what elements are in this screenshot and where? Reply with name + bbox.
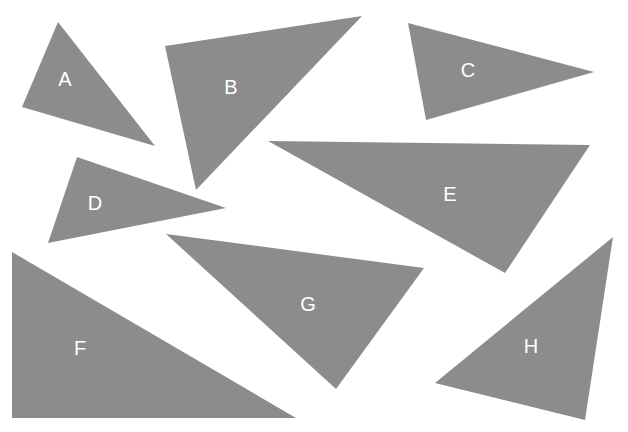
- triangle-label-g: G: [300, 293, 316, 315]
- triangle-label-c: C: [461, 59, 475, 81]
- triangle-label-f: F: [74, 337, 86, 359]
- triangle-label-e: E: [443, 183, 456, 205]
- triangles-diagram: A B C D E F G H: [0, 0, 628, 432]
- triangle-label-b: B: [224, 76, 237, 98]
- triangle-label-d: D: [88, 192, 102, 214]
- triangle-label-h: H: [524, 335, 538, 357]
- figure-canvas: A B C D E F G H: [0, 0, 628, 432]
- triangle-label-a: A: [58, 68, 72, 90]
